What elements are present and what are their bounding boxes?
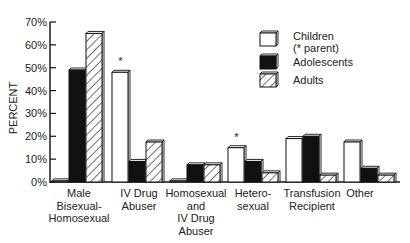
legend-swatch: [260, 74, 276, 87]
legend-swatch: [260, 33, 276, 46]
legend-swatch: [260, 56, 276, 69]
bar: [320, 175, 336, 182]
bar-group: [52, 31, 104, 182]
bar-group: [286, 134, 338, 182]
legend-item: Adults: [260, 72, 324, 87]
bar: [204, 165, 220, 182]
bar-chart: 0%10%20%30%40%50%60%70% ** MaleBisexual-…: [0, 0, 410, 243]
bar-group: [112, 70, 164, 182]
bar: [69, 70, 85, 182]
bar: [129, 161, 145, 182]
asterisk-annotation: *: [118, 55, 123, 67]
bar: [146, 142, 162, 182]
x-axis-labels: MaleBisexual-HomosexualIV DrugAbuserHomo…: [48, 187, 374, 237]
x-category-label: Hetero-sexual: [235, 187, 272, 212]
x-category-label: HomosexualandIV DrugAbuser: [165, 187, 226, 237]
legend-label: Adolescents: [293, 56, 353, 68]
y-tick-label: 60%: [25, 39, 47, 51]
legend-item: Adolescents: [260, 54, 353, 69]
bar: [361, 168, 377, 182]
bar: [86, 33, 102, 182]
legend-item: Children(* parent): [260, 30, 339, 54]
x-category-label: TransfusionRecipient: [283, 187, 340, 212]
legend-label-sub: (* parent): [293, 42, 339, 54]
bar: [378, 175, 394, 182]
bar: [112, 72, 128, 182]
legend-label: Children: [293, 30, 334, 42]
y-tick-label: 10%: [25, 153, 47, 165]
bar: [228, 148, 244, 182]
legend-label: Adults: [293, 74, 324, 86]
y-axis-label: PERCENT: [7, 81, 19, 134]
legend: Children(* parent)AdolescentsAdults: [260, 30, 353, 87]
y-tick-label: 20%: [25, 130, 47, 142]
bars: **: [52, 31, 396, 182]
y-tick-label: 0%: [31, 176, 47, 188]
bar: [303, 136, 319, 182]
bar: [262, 173, 278, 182]
y-tick-label: 30%: [25, 107, 47, 119]
bar: [170, 181, 186, 182]
bar-group: [344, 140, 396, 182]
y-tick-label: 70%: [25, 16, 47, 28]
bar-group: [170, 163, 222, 182]
bar: [245, 161, 261, 182]
bar: [52, 181, 68, 182]
y-tick-label: 50%: [25, 62, 47, 74]
bar-group: [228, 146, 280, 182]
bar: [187, 165, 203, 182]
bar: [286, 139, 302, 182]
x-category-label: IV DrugAbuser: [120, 187, 157, 212]
x-category-label: MaleBisexual-Homosexual: [48, 187, 109, 224]
bar: [344, 142, 360, 182]
asterisk-annotation: *: [234, 131, 239, 143]
x-category-label: Other: [346, 187, 374, 199]
y-tick-label: 40%: [25, 85, 47, 97]
